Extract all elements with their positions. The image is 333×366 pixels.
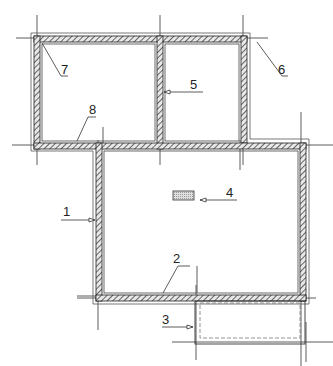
callout-4: 4 [226,185,233,200]
room-interiors [42,44,298,293]
floor-plan-drawing: 1 2 3 4 5 6 7 8 [0,0,333,366]
outer-outline [31,33,309,304]
callout-5: 5 [190,77,197,92]
callout-2: 2 [173,251,180,266]
callout-6: 6 [278,62,285,77]
porch [195,301,305,344]
callout-7: 7 [61,62,68,77]
callout-8: 8 [89,102,96,117]
central-element [173,191,194,200]
wall-middle [34,143,306,149]
wall-right-lower [300,143,306,301]
callout-3: 3 [162,312,169,327]
wall-left-upper [34,36,40,149]
wall-left-lower [96,143,102,301]
wall-bottom [96,295,306,301]
walls [34,36,306,301]
wall-right-upper [241,36,247,143]
callout-1: 1 [63,204,70,219]
wall-top [34,36,247,42]
partition-wall [157,36,163,149]
